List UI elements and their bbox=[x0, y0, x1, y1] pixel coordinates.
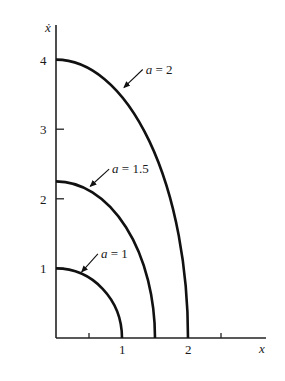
annotation-label: a = 1 bbox=[101, 246, 128, 261]
y-tick-label: 1 bbox=[40, 261, 47, 276]
x-tick-label: 1 bbox=[119, 342, 126, 357]
y-tick-label: 4 bbox=[40, 53, 47, 68]
annotation-label: a = 1.5 bbox=[112, 161, 149, 176]
curve-a-1 bbox=[56, 268, 122, 338]
phase-plane-figure: 1234 12 ẋ x a = 1a = 1.5a = 2 bbox=[0, 0, 285, 381]
annotation-arrow bbox=[90, 169, 109, 186]
x-axis-label: x bbox=[258, 341, 265, 356]
annotation-arrow bbox=[124, 70, 143, 88]
y-tick-label: 3 bbox=[40, 122, 47, 137]
y-tick-label: 2 bbox=[40, 192, 47, 207]
y-axis-label: ẋ bbox=[44, 20, 51, 35]
trajectory-curves bbox=[56, 60, 188, 338]
y-ticks: 1234 bbox=[40, 53, 64, 277]
curve-a-2 bbox=[56, 60, 188, 338]
chart-canvas: 1234 12 ẋ x a = 1a = 1.5a = 2 bbox=[0, 0, 285, 381]
x-tick-label: 2 bbox=[185, 342, 192, 357]
annotation-label: a = 2 bbox=[146, 62, 173, 77]
annotation-arrow bbox=[82, 254, 98, 272]
